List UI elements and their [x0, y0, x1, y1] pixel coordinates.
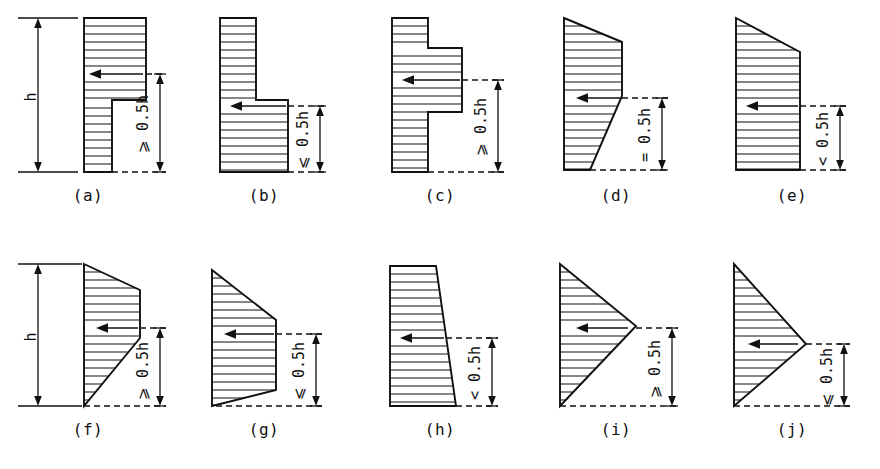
- dim-label-h: < 0.5h: [466, 338, 484, 408]
- panel-j: ⩽ 0.5h (j): [704, 234, 880, 468]
- panel-h: < 0.5h (h): [352, 234, 528, 468]
- dim-label-g: ⩽ 0.5h: [290, 336, 308, 406]
- caption-j: (j): [704, 420, 880, 439]
- profile-outline-c: [392, 18, 462, 172]
- dim-label-d: = 0.5h: [636, 100, 654, 170]
- dim-label-e: < 0.5h: [814, 104, 832, 174]
- dim-label-j: ⩽ 0.5h: [818, 342, 836, 412]
- dim-label-a: ⩾ 0.5h: [134, 89, 152, 159]
- panel-f: h ⩾ 0.5h (f): [0, 234, 176, 468]
- profile-outline-f: [84, 264, 140, 406]
- caption-a: (a): [0, 186, 176, 205]
- panel-e: < 0.5h (e): [704, 0, 880, 234]
- panel-g: ⩽ 0.5h (g): [176, 234, 352, 468]
- dim-label-f: ⩾ 0.5h: [134, 336, 152, 406]
- caption-d: (d): [528, 186, 704, 205]
- profile-outline-g: [212, 270, 276, 406]
- profile-outline-h: [390, 266, 456, 406]
- dim-label-c: ⩾ 0.5h: [472, 92, 490, 162]
- panel-b: ⩽ 0.5h (b): [176, 0, 352, 234]
- diagram-row-top: h ⩾ 0.5h (a): [0, 0, 880, 234]
- profile-outline-b: [220, 18, 288, 172]
- height-label-a: h: [22, 88, 40, 106]
- diagram-row-bottom: h ⩾ 0.5h (f): [0, 234, 880, 468]
- profile-outline-j: [734, 264, 806, 406]
- dim-label-i: ⩾ 0.5h: [646, 334, 664, 404]
- panel-a: h ⩾ 0.5h (a): [0, 0, 176, 234]
- panel-i: ⩾ 0.5h (i): [528, 234, 704, 468]
- caption-g: (g): [176, 420, 352, 439]
- panel-c: ⩾ 0.5h (c): [352, 0, 528, 234]
- panel-d: = 0.5h (d): [528, 0, 704, 234]
- caption-e: (e): [704, 186, 880, 205]
- dim-label-b: ⩽ 0.5h: [294, 105, 312, 175]
- caption-c: (c): [352, 186, 528, 205]
- caption-i: (i): [528, 420, 704, 439]
- caption-b: (b): [176, 186, 352, 205]
- caption-h: (h): [352, 420, 528, 439]
- profile-outline-e: [736, 18, 800, 170]
- profile-outline-i: [560, 264, 636, 406]
- profile-outline-d: [564, 18, 622, 170]
- pressure-distribution-figure: h ⩾ 0.5h (a): [0, 0, 880, 469]
- height-label-f: h: [22, 328, 40, 346]
- caption-f: (f): [0, 420, 176, 439]
